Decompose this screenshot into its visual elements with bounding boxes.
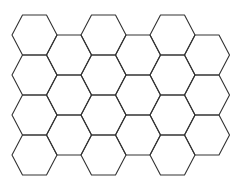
hexagonal-grid-diagram (0, 0, 242, 191)
